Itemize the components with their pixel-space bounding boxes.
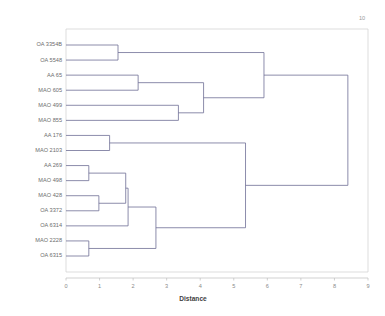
leaf-label: AA 269 xyxy=(44,162,62,168)
leaf-label: MAO 855 xyxy=(38,117,62,123)
x-tick-label: 0 xyxy=(64,283,67,289)
dendrogram-chart: 0123456789 OA 3354BOA 5548AA 65MAO 605MA… xyxy=(0,0,385,316)
dendrogram-plot: 0123456789 OA 3354BOA 5548AA 65MAO 605MA… xyxy=(0,0,385,316)
leaf-label: AA 65 xyxy=(47,72,62,78)
leaf-label: AA 176 xyxy=(44,132,62,138)
x-axis-title: Distance xyxy=(179,295,207,302)
leaf-label: OA 6315 xyxy=(40,252,62,258)
leaf-label: MAO 428 xyxy=(38,192,62,198)
leaf-label: OA 3372 xyxy=(40,207,62,213)
leaf-label: MAO 2103 xyxy=(35,147,62,153)
x-tick-label: 3 xyxy=(165,283,168,289)
leaf-label: MAO 498 xyxy=(38,177,62,183)
leaf-label: MAO 2228 xyxy=(35,237,62,243)
x-tick-label: 8 xyxy=(333,283,336,289)
x-tick-label: 7 xyxy=(299,283,302,289)
leaf-label: MAO 499 xyxy=(38,102,62,108)
x-tick-label: 6 xyxy=(266,283,269,289)
leaf-label: OA 5548 xyxy=(40,57,62,63)
corner-annotation: 10 xyxy=(359,15,365,21)
leaf-label: OA 6314 xyxy=(40,222,62,228)
x-tick-label: 4 xyxy=(199,283,202,289)
leaf-label: MAO 605 xyxy=(38,87,62,93)
leaf-label: OA 3354B xyxy=(36,41,62,47)
x-tick-label: 5 xyxy=(232,283,235,289)
x-tick-label: 1 xyxy=(98,283,101,289)
x-tick-label: 9 xyxy=(366,283,369,289)
x-tick-label: 2 xyxy=(132,283,135,289)
